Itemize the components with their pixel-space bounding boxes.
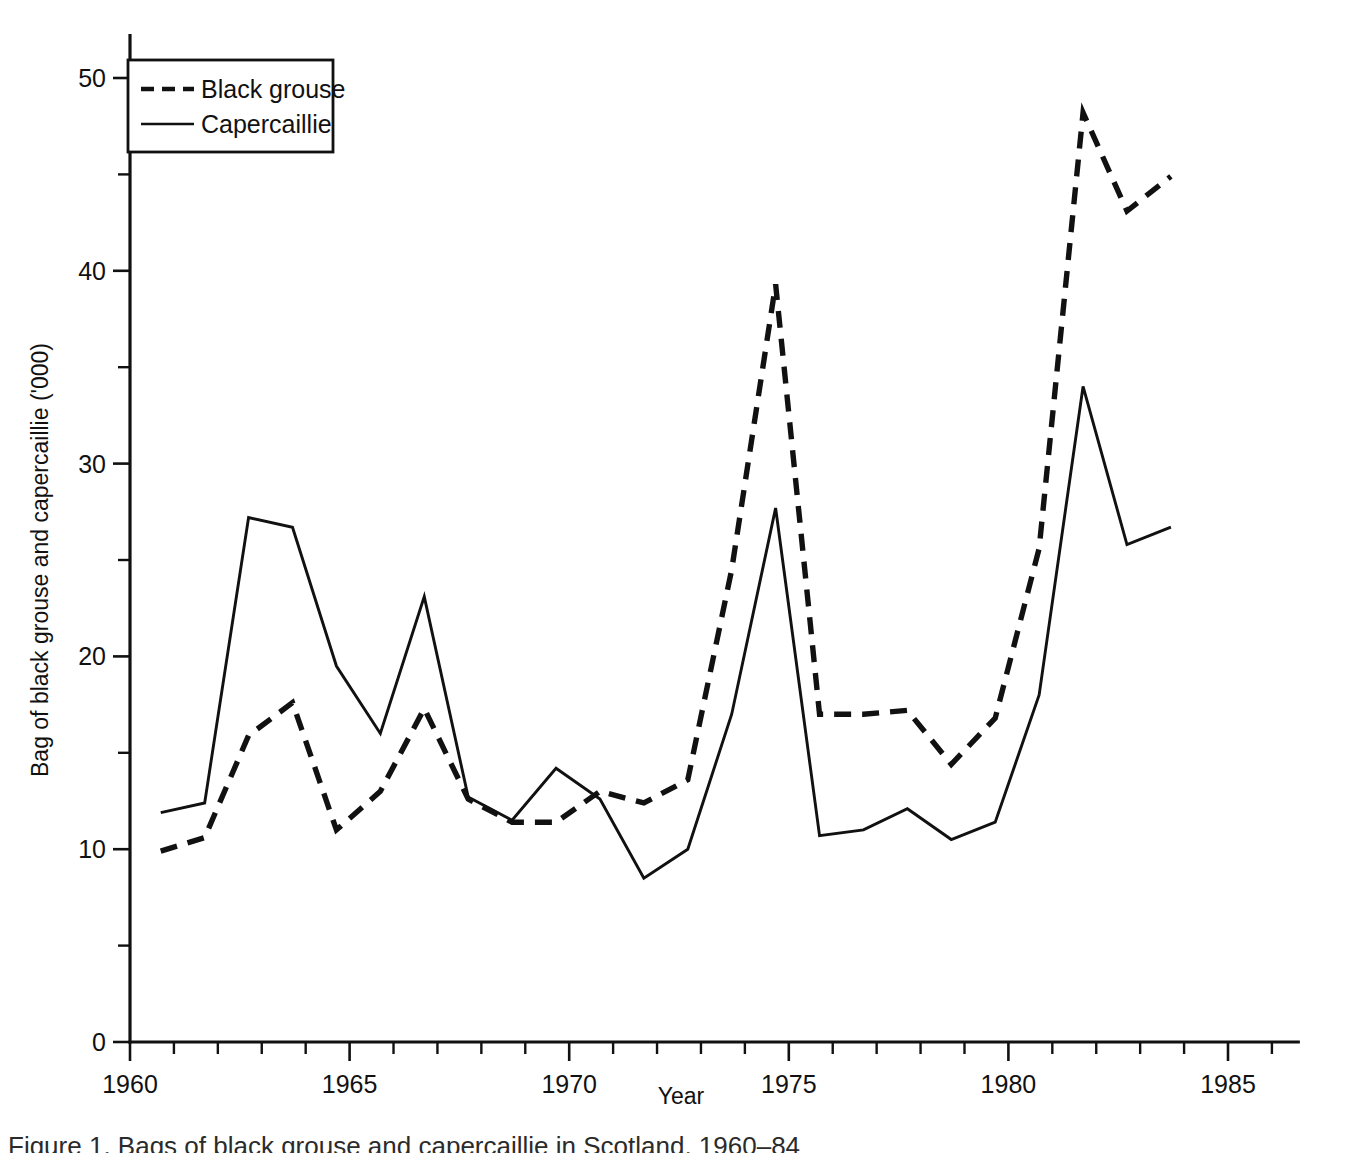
data-series-group	[161, 113, 1171, 878]
x-axis-title: Year	[658, 1083, 705, 1109]
y-tick-label: 20	[78, 642, 106, 670]
axes-group: 01020304050 196019651970197519801985	[78, 36, 1298, 1098]
x-tick-label: 1965	[322, 1070, 378, 1098]
x-tick-label: 1980	[981, 1070, 1037, 1098]
y-axis-title: Bag of black grouse and capercaillie ('0…	[27, 343, 53, 777]
y-axis-tick-labels: 01020304050	[78, 64, 106, 1056]
y-tick-label: 30	[78, 450, 106, 478]
legend-label-black-grouse: Black grouse	[201, 75, 346, 103]
legend: Black grouse Capercaillie	[128, 60, 346, 152]
y-axis-ticks	[113, 78, 130, 1042]
x-tick-label: 1960	[102, 1070, 158, 1098]
y-tick-label: 10	[78, 835, 106, 863]
x-tick-label: 1985	[1200, 1070, 1256, 1098]
y-tick-label: 0	[92, 1028, 106, 1056]
figure-caption: Figure 1. Bags of black grouse and caper…	[8, 1131, 800, 1153]
legend-box	[128, 60, 333, 152]
x-tick-label: 1970	[541, 1070, 597, 1098]
y-tick-label: 40	[78, 257, 106, 285]
x-tick-label: 1975	[761, 1070, 817, 1098]
x-axis-ticks	[130, 1042, 1272, 1061]
y-tick-label: 50	[78, 64, 106, 92]
series-line-black-grouse	[161, 113, 1171, 851]
legend-label-capercaillie: Capercaillie	[201, 110, 332, 138]
